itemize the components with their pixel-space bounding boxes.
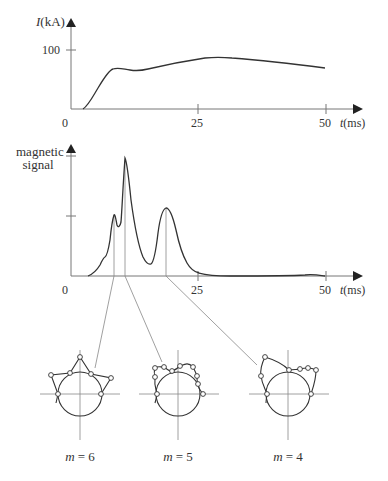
signal-xlabel-unit: (ms) bbox=[343, 283, 365, 297]
connector-m6 bbox=[95, 276, 114, 368]
signal-x-axis-arrow-icon bbox=[353, 271, 363, 281]
magnetic-signal-chart bbox=[66, 144, 363, 368]
connector-m5 bbox=[125, 276, 162, 362]
current-x-axis-arrow-icon bbox=[353, 104, 363, 114]
mode-var: m bbox=[65, 449, 74, 464]
current-xtick-label-0: 0 bbox=[62, 117, 68, 130]
mode-var: m bbox=[273, 449, 282, 464]
signal-y-axis-label-line2: signal bbox=[16, 158, 60, 171]
mode-label-m4: m = 4 bbox=[258, 450, 318, 463]
figure-canvas bbox=[0, 0, 388, 481]
mode-eq: = 4 bbox=[283, 449, 303, 464]
current-y-axis-label: I(kA) bbox=[36, 15, 65, 28]
current-ylabel-unit: (kA) bbox=[40, 14, 65, 29]
mode-label-m6: m = 6 bbox=[50, 450, 110, 463]
current-chart bbox=[66, 18, 363, 114]
mode-eq: = 5 bbox=[173, 449, 193, 464]
current-xtick-label-50: 50 bbox=[319, 117, 331, 130]
current-curve bbox=[83, 57, 325, 109]
magnetic-signal-curve bbox=[88, 158, 325, 276]
signal-xtick-label-50: 50 bbox=[319, 284, 331, 297]
connector-m4 bbox=[166, 276, 257, 365]
mode-eq: = 6 bbox=[75, 449, 95, 464]
signal-y-axis-arrow-icon bbox=[66, 144, 76, 153]
mode-diagram-m5 bbox=[139, 350, 219, 440]
mode-diagram-m6 bbox=[40, 350, 120, 440]
mode-label-m5: m = 5 bbox=[148, 450, 208, 463]
current-ytick-label-100: 100 bbox=[42, 44, 60, 57]
signal-xtick-label-25: 25 bbox=[191, 284, 203, 297]
current-xlabel-unit: (ms) bbox=[343, 116, 365, 130]
mode-diagram-m4 bbox=[249, 350, 329, 440]
current-xtick-label-25: 25 bbox=[191, 117, 203, 130]
current-y-axis-arrow-icon bbox=[66, 18, 76, 27]
signal-xtick-label-0: 0 bbox=[62, 284, 68, 297]
signal-x-axis-label: t(ms) bbox=[340, 284, 365, 297]
current-x-axis-label: t(ms) bbox=[340, 117, 365, 130]
mode-var: m bbox=[163, 449, 172, 464]
